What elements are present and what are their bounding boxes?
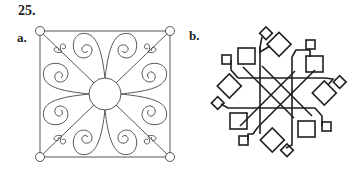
figure-b-interlaced-squares [0, 0, 358, 169]
tilted-square-large [312, 81, 336, 105]
tilted-square-small [211, 97, 224, 110]
square-small [322, 122, 331, 131]
square-small [239, 136, 248, 145]
square-large [238, 48, 255, 64]
square-small [306, 40, 315, 49]
tilted-square-small [333, 76, 346, 89]
square-large [298, 121, 315, 137]
tilted-square-large [260, 128, 284, 152]
square-small [222, 55, 231, 64]
diagonal-band [243, 67, 294, 118]
